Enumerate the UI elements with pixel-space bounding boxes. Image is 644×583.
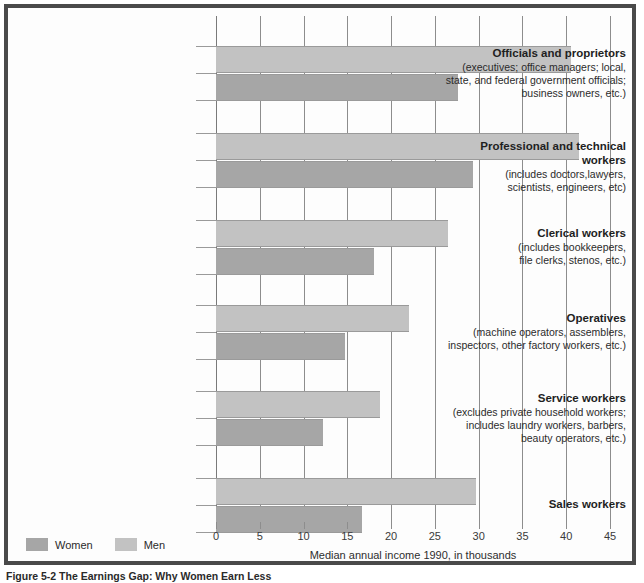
- category-description-line: (includes bookkeepers,: [436, 241, 626, 254]
- tick-label-45: 45: [604, 530, 616, 542]
- tick-mark-45: [610, 522, 611, 529]
- legend-label-men: Men: [144, 539, 165, 551]
- x-axis-ticks: 051015202530354045: [216, 530, 610, 548]
- bar-women[interactable]: [216, 506, 362, 533]
- tick-label-5: 5: [257, 530, 263, 542]
- tick-mark-15: [347, 522, 348, 529]
- category-description-line: beauty operators, etc.): [436, 432, 626, 445]
- category-description-line: (includes doctors,lawyers,: [436, 168, 626, 181]
- category-description-line: business owners, etc.): [436, 87, 626, 100]
- label-leader-rule: [196, 478, 216, 479]
- label-leader-rule: [196, 160, 216, 161]
- figure-frame: Officials and proprietors(executives; of…: [4, 4, 636, 565]
- category-description-line: (machine operators, assemblers,: [436, 326, 626, 339]
- category-label: Professional and technical workers(inclu…: [436, 139, 632, 194]
- legend: Women Men: [26, 538, 165, 551]
- label-leader-rule: [196, 418, 216, 419]
- tick-mark-20: [391, 522, 392, 529]
- tick-mark-40: [566, 522, 567, 529]
- label-leader-rule: [196, 505, 216, 506]
- tick-label-35: 35: [516, 530, 528, 542]
- x-axis-title: Median annual income 1990, in thousands: [216, 549, 610, 561]
- label-leader-rule: [196, 133, 216, 134]
- tick-mark-10: [304, 522, 305, 529]
- tick-label-25: 25: [429, 530, 441, 542]
- tick-label-0: 0: [213, 530, 219, 542]
- label-leader-rule: [196, 332, 216, 333]
- tick-mark-0: [216, 522, 217, 529]
- category-title: Clerical workers: [436, 226, 626, 240]
- tick-label-10: 10: [297, 530, 309, 542]
- legend-swatch-men-icon: [115, 538, 137, 551]
- label-leader-rule: [196, 247, 216, 248]
- figure-caption: Figure 5-2 The Earnings Gap: Why Women E…: [6, 570, 626, 582]
- category-description-line: includes laundry workers, barbers,: [436, 419, 626, 432]
- category-label: Sales workers: [436, 497, 632, 512]
- label-leader-rule: [196, 100, 216, 101]
- category-label: Officials and proprietors(executives; of…: [436, 46, 632, 100]
- category-label: Operatives(machine operators, assemblers…: [436, 311, 632, 352]
- category-description-line: inspectors, other factory workers, etc.): [436, 339, 626, 352]
- category-title: Service workers: [436, 391, 626, 405]
- bar-women[interactable]: [216, 248, 374, 275]
- category-title: Operatives: [436, 311, 626, 325]
- label-leader-rule: [196, 359, 216, 360]
- bar-men[interactable]: [216, 220, 448, 247]
- bar-women[interactable]: [216, 74, 458, 101]
- tick-label-20: 20: [385, 530, 397, 542]
- legend-label-women: Women: [55, 539, 93, 551]
- label-leader-rule: [196, 274, 216, 275]
- legend-item-men: Men: [115, 538, 165, 551]
- bar-men[interactable]: [216, 305, 409, 332]
- tick-mark-30: [479, 522, 480, 529]
- bar-women[interactable]: [216, 161, 473, 188]
- label-leader-rule: [196, 445, 216, 446]
- category-description-line: scientists, engineers, etc): [436, 181, 626, 194]
- category-description-line: (excludes private household workers;: [436, 406, 626, 419]
- category-title: Officials and proprietors: [436, 46, 626, 60]
- category-label: Service workers(excludes private househo…: [436, 391, 632, 445]
- tick-mark-5: [260, 522, 261, 529]
- bar-women[interactable]: [216, 333, 345, 360]
- legend-item-women: Women: [26, 538, 93, 551]
- bar-women[interactable]: [216, 419, 323, 446]
- label-leader-rule: [196, 46, 216, 47]
- category-description-line: file clerks, stenos, etc.): [436, 254, 626, 267]
- category-title: Sales workers: [436, 497, 626, 511]
- category-label: Clerical workers(includes bookkeepers,fi…: [436, 226, 632, 267]
- figure-inner: Officials and proprietors(executives; of…: [8, 8, 632, 561]
- label-leader-rule: [196, 391, 216, 392]
- tick-label-15: 15: [341, 530, 353, 542]
- figure-page: Officials and proprietors(executives; of…: [0, 0, 644, 583]
- label-leader-rule: [196, 305, 216, 306]
- bar-men[interactable]: [216, 391, 380, 418]
- category-description-line: state, and federal government officials;: [436, 74, 626, 87]
- tick-label-40: 40: [560, 530, 572, 542]
- tick-mark-25: [435, 522, 436, 529]
- label-leader-rule: [196, 73, 216, 74]
- label-leader-rule: [196, 220, 216, 221]
- tick-label-30: 30: [473, 530, 485, 542]
- label-leader-rule: [196, 187, 216, 188]
- category-description-line: (executives; office managers; local,: [436, 61, 626, 74]
- category-title: Professional and technical workers: [436, 139, 626, 167]
- tick-mark-35: [522, 522, 523, 529]
- legend-swatch-women-icon: [26, 538, 48, 551]
